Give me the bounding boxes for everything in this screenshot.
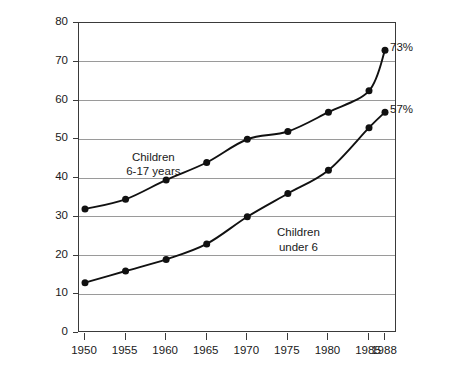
x-tick-mark-1985 — [368, 333, 369, 340]
y-tick-label-70: 70 — [36, 55, 68, 67]
data-point-s0-1980 — [325, 109, 332, 116]
y-tick-label-50: 50 — [36, 132, 68, 144]
line-chart: 01020304050607080 1950195519601965197019… — [0, 0, 462, 377]
series-annotation-upper-line1: Children — [110, 150, 196, 164]
end-label-lower: 57% — [390, 104, 413, 116]
y-tick-label-20: 20 — [36, 249, 68, 261]
x-tick-mark-1988 — [384, 333, 385, 340]
data-point-s1-1955 — [122, 268, 129, 275]
x-tick-label-1988: 1988 — [360, 345, 408, 357]
data-point-s0-1975 — [284, 128, 291, 135]
x-tick-mark-1960 — [165, 333, 166, 340]
series-annotation-lower-line1: Children — [258, 225, 338, 239]
y-tick-label-40: 40 — [36, 171, 68, 183]
y-tick-label-0: 0 — [36, 326, 68, 338]
series-annotation-upper: Children 6-17 years — [110, 150, 196, 179]
data-point-s1-1965 — [203, 240, 210, 247]
data-point-s0-1985 — [366, 87, 373, 94]
data-point-s1-1970 — [244, 213, 251, 220]
x-tick-mark-1975 — [287, 333, 288, 340]
y-tick-mark-0 — [73, 332, 78, 333]
x-tick-mark-1965 — [206, 333, 207, 340]
series-annotation-lower: Children under 6 — [258, 225, 338, 254]
x-tick-mark-1955 — [125, 333, 126, 340]
y-tick-label-10: 10 — [36, 287, 68, 299]
series-line-0 — [85, 50, 385, 209]
x-tick-mark-1980 — [327, 333, 328, 340]
data-point-s0-1988 — [382, 47, 389, 54]
series-annotation-lower-line2: under 6 — [258, 240, 338, 254]
data-point-s1-1960 — [163, 256, 170, 263]
data-point-s0-1955 — [122, 196, 129, 203]
end-label-upper: 73% — [390, 42, 413, 54]
data-point-s1-1985 — [366, 124, 373, 131]
data-point-s0-1965 — [203, 159, 210, 166]
data-point-s0-1950 — [82, 206, 89, 213]
y-tick-label-60: 60 — [36, 94, 68, 106]
data-point-s1-1950 — [82, 279, 89, 286]
y-tick-label-30: 30 — [36, 210, 68, 222]
x-tick-mark-1950 — [84, 333, 85, 340]
data-point-s1-1988 — [382, 109, 389, 116]
data-point-s1-1980 — [325, 167, 332, 174]
x-tick-mark-1970 — [246, 333, 247, 340]
data-point-s1-1975 — [284, 190, 291, 197]
series-annotation-upper-line2: 6-17 years — [110, 164, 196, 178]
y-tick-label-80: 80 — [36, 16, 68, 28]
data-point-s0-1970 — [244, 136, 251, 143]
